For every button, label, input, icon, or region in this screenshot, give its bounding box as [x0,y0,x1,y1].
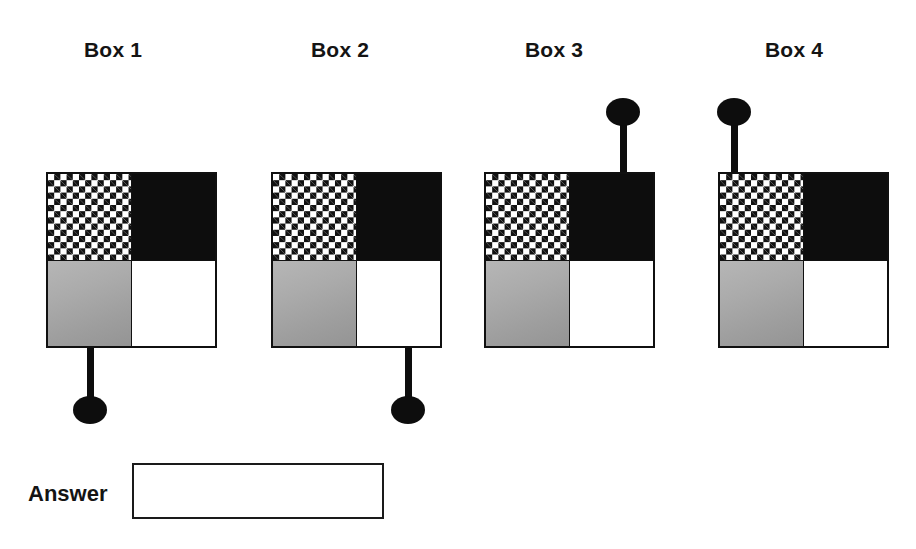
quad-box-4 [718,172,889,348]
quadrant-bottom-right-white [357,260,441,346]
quadrant-bottom-left-gray [273,260,357,346]
quadrant-bottom-left-gray [48,260,132,346]
stem-down-2 [405,346,412,398]
stem-down-1 [87,346,94,398]
quadrant-bottom-right-white [804,260,888,346]
quadrant-top-right-black [357,174,441,260]
quad-box-2 [271,172,442,348]
box-label-1: Box 1 [84,38,142,62]
stem-up-3 [620,122,627,174]
knob-ellipse-2 [391,396,425,424]
quad-box-3 [484,172,655,348]
quadrant-top-left-checkered [273,174,357,260]
quadrant-bottom-left-gray [486,260,570,346]
quadrant-bottom-right-white [132,260,216,346]
knob-ellipse-1 [73,396,107,424]
box-label-4: Box 4 [765,38,823,62]
box-label-3: Box 3 [525,38,583,62]
quadrant-bottom-right-white [570,260,654,346]
quadrant-top-right-black [570,174,654,260]
stem-up-4 [731,122,738,174]
quadrant-top-left-checkered [486,174,570,260]
answer-label: Answer [28,481,107,507]
quad-box-1 [46,172,217,348]
knob-ellipse-3 [606,98,640,126]
quadrant-top-left-checkered [720,174,804,260]
quadrant-top-right-black [804,174,888,260]
box-label-2: Box 2 [311,38,369,62]
quadrant-top-left-checkered [48,174,132,260]
answer-input-box[interactable] [132,463,384,519]
quadrant-top-right-black [132,174,216,260]
figure-stage: Box 1 Box 2 Box 3 Bo [0,0,916,549]
knob-ellipse-4 [717,98,751,126]
quadrant-bottom-left-gray [720,260,804,346]
